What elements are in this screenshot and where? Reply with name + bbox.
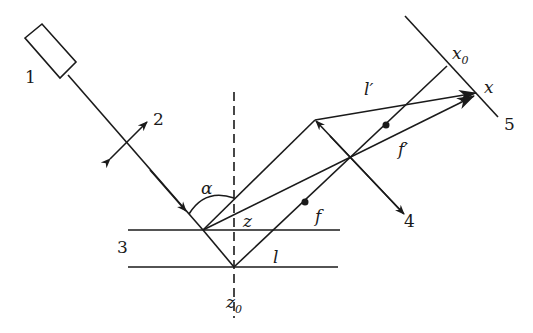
angle-alpha-arc — [189, 195, 234, 214]
label-x: x — [484, 77, 494, 97]
beam-z0-to-x0 — [234, 66, 447, 267]
label-lens-4: 4 — [404, 211, 415, 231]
label-alpha: α — [201, 178, 213, 198]
focal-point-f — [302, 199, 309, 206]
label-sample-3: 3 — [117, 237, 128, 257]
incident-beam-arrow — [150, 170, 186, 211]
label-f: f — [313, 206, 324, 226]
label-l: l — [273, 247, 278, 267]
label-polarizer-2: 2 — [153, 109, 164, 129]
label-z0: z0 — [225, 292, 242, 316]
label-z: z — [242, 211, 253, 231]
focal-point-f-prime — [383, 122, 390, 129]
polarizer-double-arrow — [110, 122, 147, 159]
label-l-prime: l′ — [364, 79, 373, 99]
label-detector-5: 5 — [504, 114, 515, 134]
label-f-prime: f′ — [396, 139, 408, 159]
refracted-beam-down — [203, 230, 234, 267]
optical-diagram: 1 2 α z 3 l f z0 l′ f′ 4 x0 x 5 — [0, 0, 533, 333]
beam-z-to-lens-top — [203, 120, 315, 230]
label-source-1: 1 — [25, 67, 36, 87]
label-x0: x0 — [452, 43, 469, 67]
lens-axis-arrow-down — [330, 136, 404, 214]
